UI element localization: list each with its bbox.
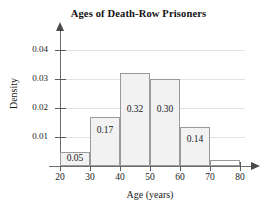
histogram-figure: Ages of Death-Row Prisoners 0.04 0.03 0.… <box>0 0 277 210</box>
bar-value-30-40: 0.17 <box>90 125 120 135</box>
y-axis-label: Density <box>8 59 19 129</box>
histogram-bar-40-50 <box>120 73 150 166</box>
x-tick-label-50: 50 <box>138 172 162 182</box>
x-tick-label-60: 60 <box>168 172 192 182</box>
y-tick-0.02 <box>55 108 66 109</box>
y-axis-arrow-icon <box>56 22 64 31</box>
y-tick-label-0.04: 0.04 <box>12 44 48 54</box>
bar-value-50-60: 0.30 <box>150 104 180 114</box>
y-tick-0.03 <box>55 79 66 80</box>
bar-value-60-70: 0.14 <box>180 134 210 144</box>
y-tick-label-0.01: 0.01 <box>12 131 48 141</box>
gridline-0.04 <box>61 50 245 51</box>
x-tick-label-40: 40 <box>108 172 132 182</box>
histogram-bar-50-60 <box>150 79 180 166</box>
x-tick-80 <box>240 162 241 171</box>
bar-value-40-50: 0.32 <box>120 104 150 114</box>
histogram-bar-60-70 <box>180 127 210 166</box>
y-tick-0.01 <box>55 137 66 138</box>
plot-area: 0.04 0.03 0.02 0.01 Density 20 30 40 50 … <box>0 0 277 210</box>
bar-value-20-30: 0.05 <box>60 153 90 163</box>
x-tick-label-20: 20 <box>48 172 72 182</box>
x-axis-label: Age (years) <box>60 189 240 200</box>
histogram-bar-70-80 <box>210 160 240 166</box>
x-axis-arrow-icon <box>251 162 260 170</box>
y-tick-0.04 <box>55 50 66 51</box>
x-tick-label-30: 30 <box>78 172 102 182</box>
x-tick-label-80: 80 <box>228 172 252 182</box>
x-tick-label-70: 70 <box>198 172 222 182</box>
